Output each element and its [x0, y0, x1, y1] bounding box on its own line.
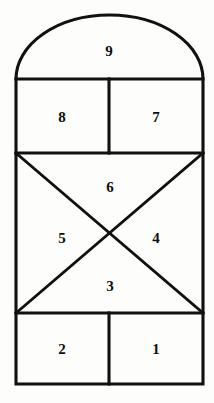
cell-number-2: 2: [58, 342, 66, 357]
cell-number-6: 6: [106, 180, 114, 195]
court-line-art: [0, 0, 214, 403]
hopscotch-court-figure: 9 8 7 6 5 4 3 2 1: [0, 0, 214, 403]
cell-number-9: 9: [105, 44, 113, 59]
cell-number-4: 4: [152, 231, 160, 246]
cell-number-1: 1: [152, 342, 160, 357]
cell-number-3: 3: [106, 279, 114, 294]
cell-number-8: 8: [58, 110, 66, 125]
cell-number-7: 7: [152, 110, 160, 125]
cell-number-5: 5: [58, 231, 66, 246]
